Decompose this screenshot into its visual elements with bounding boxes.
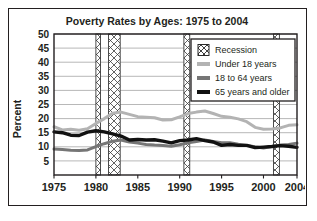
figure-frame: Poverty Rates by Ages: 1975 to 2004 Perc…	[8, 8, 307, 206]
y-tick-label: 10	[38, 141, 50, 152]
legend-swatch-recession	[198, 45, 209, 56]
y-tick-label: 20	[38, 113, 50, 124]
x-axis-ticks: 1975198019851990199520002004	[42, 175, 305, 193]
legend-label: 18 to 64 years	[215, 73, 273, 83]
legend-label: 65 years and older	[215, 87, 290, 97]
x-tick-label: 2000	[251, 181, 275, 193]
y-tick-label: 25	[38, 99, 50, 110]
recession-band	[108, 34, 120, 175]
poverty-rates-chart: Poverty Rates by Ages: 1975 to 2004 Perc…	[9, 9, 305, 204]
series-lines	[54, 111, 297, 150]
x-tick-label: 1980	[84, 181, 108, 193]
legend-swatch-65-years-and-older	[197, 90, 210, 94]
recession-band	[184, 34, 190, 175]
y-tick-label: 5	[43, 156, 49, 167]
x-tick-label: 1990	[167, 181, 191, 193]
legend-label: Under 18 years	[215, 59, 277, 69]
x-tick-label: 2004	[285, 181, 305, 193]
series-line-under-18-years	[54, 111, 297, 130]
y-tick-label: 30	[38, 85, 50, 96]
y-tick-label: 40	[38, 57, 50, 68]
x-tick-label: 1975	[42, 181, 66, 193]
y-tick-label: 50	[38, 29, 50, 40]
x-tick-label: 1985	[126, 181, 150, 193]
y-tick-label: 35	[38, 71, 50, 82]
recession-band	[96, 34, 101, 175]
y-tick-label: 45	[38, 43, 50, 54]
y-axis-title: Percent	[11, 99, 23, 138]
chart-legend: RecessionUnder 18 years18 to 64 years65 …	[191, 39, 295, 101]
page-title: Poverty Rates by Ages: 1975 to 2004	[66, 15, 248, 27]
legend-label: Recession	[215, 45, 257, 55]
legend-swatch-under-18-years	[197, 62, 210, 66]
y-axis-ticks: 5101520253035404550	[38, 29, 50, 167]
x-tick-label: 1995	[209, 181, 233, 193]
legend-swatch-18-to-64-years	[197, 76, 210, 80]
y-tick-label: 15	[38, 127, 50, 138]
